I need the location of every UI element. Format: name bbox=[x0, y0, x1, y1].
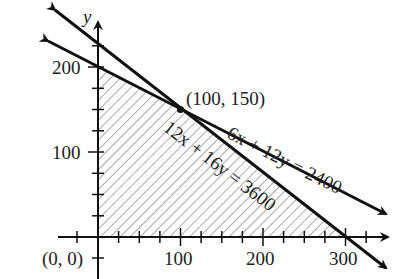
y-tick-label-100: 100 bbox=[52, 143, 81, 162]
y-tick-label-200: 200 bbox=[52, 58, 81, 77]
x-tick-label-200: 200 bbox=[246, 249, 275, 268]
y-axis-label: y bbox=[83, 7, 91, 26]
x-tick-label-100: 100 bbox=[164, 249, 193, 268]
vertex-point bbox=[177, 106, 184, 113]
vertex-label: (100, 150) bbox=[186, 89, 265, 108]
origin-label: (0, 0) bbox=[42, 249, 83, 268]
x-tick-label-300: 300 bbox=[329, 249, 358, 268]
